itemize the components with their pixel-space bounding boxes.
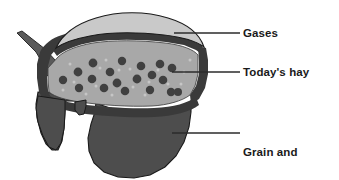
label-grain-and-yesterdays-hay: Grain and yesterday's hay <box>243 120 330 180</box>
todays-hay-region <box>48 41 198 107</box>
label-gases: Gases <box>243 27 278 40</box>
label-todays-hay: Today's hay <box>243 66 309 79</box>
small-center-lobe <box>75 100 86 115</box>
label-grain-line1: Grain and <box>243 146 330 159</box>
diagram-page: Gases Today's hay Grain and yesterday's … <box>0 0 339 180</box>
lower-left-lobe <box>36 96 65 150</box>
